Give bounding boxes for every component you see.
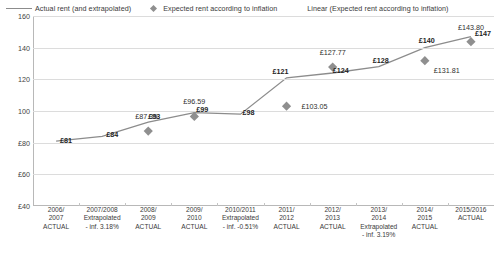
x-axis-tick bbox=[171, 203, 172, 206]
legend-label-expected-rent: Expected rent according to inflation bbox=[163, 4, 277, 13]
actual-rent-data-label: £121 bbox=[273, 66, 289, 75]
y-axis-tick-label: 120 bbox=[18, 75, 30, 84]
x-axis-category-line: Extrapolated bbox=[79, 214, 125, 222]
x-axis-category-label: 2014/2015ACTUAL bbox=[402, 206, 448, 231]
x-axis-category-label: 2015/2016ACTUAL bbox=[448, 206, 494, 223]
x-axis-category-line: 2010/2011 bbox=[217, 206, 263, 214]
x-axis-category-line: 2012/ bbox=[310, 206, 356, 214]
gridline bbox=[33, 174, 494, 175]
expected-rent-marker bbox=[420, 56, 429, 65]
x-axis-tick bbox=[310, 203, 311, 206]
rent-vs-inflation-chart: Actual rent (and extrapolated) Expected … bbox=[0, 0, 498, 257]
legend-label-actual-rent: Actual rent (and extrapolated) bbox=[35, 4, 131, 13]
legend-item-linear-trend[interactable]: Linear (Expected rent according to infla… bbox=[307, 4, 448, 13]
expected-rent-data-label: £131.81 bbox=[434, 65, 460, 74]
y-axis: 160140120100£80£60£40 bbox=[0, 16, 33, 206]
actual-rent-data-label: £84 bbox=[106, 130, 118, 139]
line-swatch-icon bbox=[6, 8, 32, 9]
x-axis-category-line: ACTUAL bbox=[171, 223, 217, 231]
expected-rent-data-label: £143.80 bbox=[458, 22, 484, 31]
x-axis-category-label: 2009/2010ACTUAL bbox=[171, 206, 217, 231]
x-axis-category-line: 2009 bbox=[125, 214, 171, 222]
expected-rent-data-label: £103.05 bbox=[302, 102, 328, 111]
expected-rent-data-label: £127.77 bbox=[320, 48, 346, 57]
x-axis-category-label: 2007/2008Extrapolated- inf. 3.18% bbox=[79, 206, 125, 231]
x-axis-category-line: 2015/2016 bbox=[448, 206, 494, 214]
x-axis-category-line: - inf. -0.51% bbox=[217, 223, 263, 231]
gridline bbox=[33, 111, 494, 112]
x-axis-category-line: Extrapolated bbox=[217, 214, 263, 222]
x-axis-category-line: 2014 bbox=[356, 214, 402, 222]
y-axis-tick-label: £60 bbox=[18, 170, 30, 179]
x-axis-tick bbox=[79, 203, 80, 206]
y-axis-tick-label: 100 bbox=[18, 107, 30, 116]
x-axis-category-line: 2012 bbox=[264, 214, 310, 222]
x-axis-category-line: ACTUAL bbox=[33, 223, 79, 231]
x-axis-category-label: 2012/2013ACTUAL bbox=[310, 206, 356, 231]
x-axis-tick bbox=[264, 203, 265, 206]
y-axis-tick-label: £80 bbox=[18, 138, 30, 147]
y-axis-tick-label: 140 bbox=[18, 43, 30, 52]
x-axis-category-line: 2009/ bbox=[171, 206, 217, 214]
gridline bbox=[33, 143, 494, 144]
legend-item-expected-rent[interactable]: Expected rent according to inflation bbox=[149, 4, 277, 13]
x-axis-category-line: 2008/ bbox=[125, 206, 171, 214]
x-axis-category-line: - inf. 3.18% bbox=[79, 223, 125, 231]
x-axis-category-line: 2014/ bbox=[402, 206, 448, 214]
x-axis-tick bbox=[448, 203, 449, 206]
x-axis-category-line: ACTUAL bbox=[264, 223, 310, 231]
x-axis-tick bbox=[402, 203, 403, 206]
plot-area: £81£84£93£99£98£121£124£128£140£147£87.3… bbox=[33, 16, 494, 206]
expected-rent-marker bbox=[466, 37, 475, 46]
chart-legend: Actual rent (and extrapolated) Expected … bbox=[0, 0, 498, 16]
x-axis-category-line: 2010 bbox=[171, 214, 217, 222]
plot-wrapper: 160140120100£80£60£40 £81£84£93£99£98£12… bbox=[0, 16, 498, 206]
x-axis-category-line: Extrapolated bbox=[356, 223, 402, 231]
x-axis-category-line: 2007 bbox=[33, 214, 79, 222]
x-axis-category-line: - inf. 3.19% bbox=[356, 231, 402, 239]
x-axis-category-label: 2008/2009ACTUAL bbox=[125, 206, 171, 231]
actual-rent-data-label: £128 bbox=[373, 55, 389, 64]
legend-label-linear-trend: Linear (Expected rent according to infla… bbox=[307, 4, 448, 13]
gridline bbox=[33, 16, 494, 17]
expected-rent-data-label: £87.35 bbox=[135, 112, 157, 121]
x-axis-tick bbox=[125, 203, 126, 206]
actual-rent-data-label: £124 bbox=[333, 66, 349, 75]
x-axis-category-line: 2013/ bbox=[356, 206, 402, 214]
x-axis-category-line: 2006/ bbox=[33, 206, 79, 214]
actual-rent-line bbox=[56, 37, 471, 142]
x-axis-category-label: 2006/2007ACTUAL bbox=[33, 206, 79, 231]
y-axis-tick-label: 160 bbox=[18, 12, 30, 21]
x-axis-category-label: 2013/2014Extrapolated- inf. 3.19% bbox=[356, 206, 402, 240]
actual-rent-data-label: £98 bbox=[242, 108, 254, 117]
y-axis-tick-label: £40 bbox=[18, 202, 30, 211]
x-axis-category-line: ACTUAL bbox=[125, 223, 171, 231]
expected-rent-data-label: £96.59 bbox=[183, 97, 205, 106]
x-axis-category-label: 2011/2012ACTUAL bbox=[264, 206, 310, 231]
actual-rent-data-label: £81 bbox=[60, 136, 72, 145]
x-axis-tick bbox=[217, 203, 218, 206]
x-axis-category-line: 2013 bbox=[310, 214, 356, 222]
actual-rent-data-label: £140 bbox=[419, 35, 435, 44]
gridline bbox=[33, 48, 494, 49]
x-axis-category-line: 2011/ bbox=[264, 206, 310, 214]
gridline bbox=[33, 79, 494, 80]
x-axis-tick bbox=[356, 203, 357, 206]
expected-rent-marker bbox=[282, 102, 291, 111]
expected-rent-marker bbox=[144, 126, 153, 135]
x-axis-category-line: ACTUAL bbox=[448, 214, 494, 222]
diamond-swatch-icon bbox=[150, 4, 157, 11]
x-axis-category-line: 2015 bbox=[402, 214, 448, 222]
x-axis-category-line: ACTUAL bbox=[310, 223, 356, 231]
x-axis-category-line: 2007/2008 bbox=[79, 206, 125, 214]
x-axis-category-label: 2010/2011Extrapolated- inf. -0.51% bbox=[217, 206, 263, 231]
x-axis-category-line: ACTUAL bbox=[402, 223, 448, 231]
x-axis-categories: 2006/2007ACTUAL2007/2008Extrapolated- in… bbox=[33, 206, 494, 257]
